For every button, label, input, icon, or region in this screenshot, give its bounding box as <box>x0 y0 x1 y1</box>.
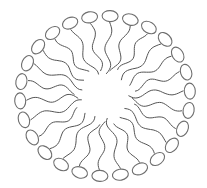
micelle-head <box>70 165 89 180</box>
micelle-tail <box>50 113 85 148</box>
micelle-head <box>61 15 80 32</box>
micelle-head <box>14 93 26 110</box>
micelle-head <box>169 45 187 64</box>
micelle-tail <box>63 117 95 159</box>
micelle-head <box>15 73 29 91</box>
micelle-svg <box>0 0 207 188</box>
micelle-tail <box>120 118 154 154</box>
micelle-tail <box>106 118 120 168</box>
micelle-tail <box>31 100 82 120</box>
micelle-tail <box>110 26 130 70</box>
micelle-diagram <box>0 0 207 188</box>
hydrophobic-tails <box>27 22 183 169</box>
micelle-head <box>19 54 36 73</box>
micelle-head <box>112 168 130 182</box>
micelle-head <box>178 63 193 82</box>
micelle-tail <box>28 81 74 95</box>
micelle-head <box>121 12 140 27</box>
micelle-tail <box>27 94 78 102</box>
micelle-tail <box>39 108 77 137</box>
micelle-tail <box>105 22 112 73</box>
micelle-head <box>139 19 158 37</box>
micelle-tail <box>121 44 160 80</box>
micelle-tail <box>135 72 179 91</box>
micelle-tail <box>125 109 166 143</box>
micelle-head <box>130 161 149 178</box>
micelle-head <box>23 128 41 147</box>
micelle-tail <box>80 125 100 166</box>
micelle-head <box>43 24 62 43</box>
micelle-tail <box>91 24 103 71</box>
micelle-tail <box>43 51 83 81</box>
micelle-head <box>92 170 109 182</box>
micelle-head <box>182 102 196 120</box>
micelle-head <box>156 30 175 49</box>
micelle-head <box>81 10 99 24</box>
micelle-head <box>16 111 31 130</box>
hydrophilic-heads <box>14 10 196 182</box>
micelle-tail <box>98 122 105 170</box>
micelle-head <box>35 143 54 162</box>
micelle-head <box>184 83 196 100</box>
micelle-tail <box>114 124 139 162</box>
micelle-head <box>148 150 167 169</box>
micelle-tail <box>34 64 82 90</box>
micelle-tail <box>55 39 89 71</box>
micelle-head <box>174 119 191 138</box>
micelle-tail <box>135 104 176 128</box>
micelle-head <box>51 156 70 174</box>
micelle-head <box>102 10 119 22</box>
micelle-head <box>163 136 182 155</box>
